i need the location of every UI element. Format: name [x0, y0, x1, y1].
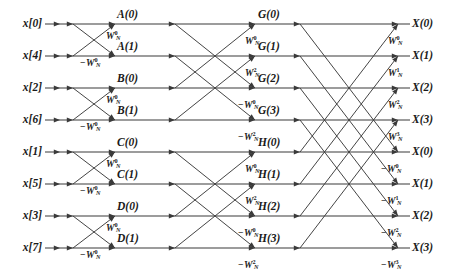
- output-label-6: X(2): [412, 210, 433, 222]
- stage1-in-arrow-4: [67, 150, 73, 155]
- stage1-in-arrow-0: [67, 22, 73, 27]
- stage1-label-3: B(1): [117, 105, 138, 117]
- twiddle-stage1-1: −W0N: [80, 59, 100, 69]
- twiddle-stage2-4: W0N: [245, 165, 260, 175]
- stage2-label-4: H(0): [258, 137, 280, 149]
- twiddle-stage3-2: W2N: [388, 101, 403, 111]
- twiddle-stage1-3: −W0N: [80, 123, 100, 133]
- output-label-1: X(1): [412, 50, 433, 62]
- twiddle-stage1-6: W0N: [106, 224, 121, 234]
- stage3-in-arrow-1: [294, 54, 300, 59]
- output-label-5: X(1): [412, 178, 433, 190]
- stage1-in-arrow-5: [67, 182, 73, 187]
- twiddle-stage1-0: W0N: [106, 32, 121, 42]
- stage1-in-arrow-7: [67, 246, 73, 251]
- twiddle-stage1-2: W0N: [106, 96, 121, 106]
- twiddle-stage3-7: −W3N: [381, 261, 401, 271]
- stage1-in-arrow-1: [67, 54, 73, 59]
- input-arrow-4: [54, 150, 60, 155]
- stage2-in-arrow-2: [169, 86, 175, 91]
- input-label-2: x[2]: [23, 82, 42, 94]
- stage1-in-arrow-3: [67, 118, 73, 123]
- input-arrow-6: [54, 214, 60, 219]
- stage1-label-6: D(0): [117, 201, 139, 213]
- stage2-in-arrow-4: [169, 150, 175, 155]
- twiddle-stage1-4: W0N: [106, 160, 121, 170]
- stage2-in-arrow-7: [169, 246, 175, 251]
- twiddle-stage3-1: W1N: [388, 69, 403, 79]
- twiddle-stage3-3: W3N: [388, 133, 403, 143]
- twiddle-stage1-7: −W0N: [80, 251, 100, 261]
- output-label-7: X(3): [412, 242, 433, 254]
- stage2-label-5: H(1): [258, 169, 280, 181]
- twiddle-stage2-7: −W2N: [238, 261, 258, 271]
- stage1-label-2: B(0): [117, 73, 138, 85]
- stage1-label-1: A(1): [117, 41, 138, 53]
- input-arrow-2: [54, 86, 60, 91]
- twiddle-stage2-6: −W0N: [238, 229, 258, 239]
- input-label-3: x[6]: [23, 114, 42, 126]
- input-arrow-7: [54, 246, 60, 251]
- stage3-in-arrow-7: [294, 246, 300, 251]
- output-label-2: X(2): [412, 82, 433, 94]
- input-label-7: x[7]: [23, 242, 42, 254]
- input-label-6: x[3]: [23, 210, 42, 222]
- stage1-in-arrow-6: [67, 214, 73, 219]
- twiddle-stage3-4: −W0N: [381, 165, 401, 175]
- twiddle-stage3-0: W0N: [388, 37, 403, 47]
- stage2-label-6: H(2): [258, 201, 280, 213]
- stage2-in-arrow-6: [169, 214, 175, 219]
- output-label-0: X(0): [412, 18, 433, 30]
- stage2-label-1: G(1): [258, 41, 280, 53]
- input-label-5: x[5]: [23, 178, 42, 190]
- stage3-in-arrow-2: [294, 86, 300, 91]
- output-label-3: X(3): [412, 114, 433, 126]
- twiddle-stage2-3: −W2N: [238, 133, 258, 143]
- stage3-in-arrow-4: [294, 150, 300, 155]
- stage1-in-arrow-2: [67, 86, 73, 91]
- input-label-4: x[1]: [23, 146, 42, 158]
- stage2-label-2: G(2): [258, 73, 280, 85]
- twiddle-stage2-0: W0N: [245, 37, 260, 47]
- stage2-in-arrow-3: [169, 118, 175, 123]
- stage1-label-0: A(0): [117, 9, 138, 21]
- input-arrow-1: [54, 54, 60, 59]
- twiddle-stage3-5: −W1N: [381, 197, 401, 207]
- stage2-label-7: H(3): [258, 233, 280, 245]
- twiddle-stage1-5: −W0N: [80, 187, 100, 197]
- stage3-in-arrow-6: [294, 214, 300, 219]
- input-label-0: x[0]: [23, 18, 42, 30]
- stage2-in-arrow-0: [169, 22, 175, 27]
- twiddle-stage2-1: W2N: [245, 69, 260, 79]
- stage1-label-5: C(1): [117, 169, 138, 181]
- input-label-1: x[4]: [23, 50, 42, 62]
- twiddle-stage2-2: −W0N: [238, 101, 258, 111]
- stage2-label-0: G(0): [258, 9, 280, 21]
- twiddle-stage2-5: W2N: [245, 197, 260, 207]
- stage3-in-arrow-3: [294, 118, 300, 123]
- twiddle-stage3-6: −W2N: [381, 229, 401, 239]
- stage3-in-arrow-0: [294, 22, 300, 27]
- input-arrow-5: [54, 182, 60, 187]
- stage3-in-arrow-5: [294, 182, 300, 187]
- stage1-label-7: D(1): [117, 233, 139, 245]
- stage2-label-3: G(3): [258, 105, 280, 117]
- stage2-in-arrow-5: [169, 182, 175, 187]
- fft-butterfly-diagram: x[0]x[4]x[2]x[6]x[1]x[5]x[3]x[7]A(0)A(1)…: [0, 0, 451, 278]
- input-arrow-0: [54, 22, 60, 27]
- output-label-4: X(0): [412, 146, 433, 158]
- stage2-in-arrow-1: [169, 54, 175, 59]
- input-arrow-3: [54, 118, 60, 123]
- stage1-label-4: C(0): [117, 137, 138, 149]
